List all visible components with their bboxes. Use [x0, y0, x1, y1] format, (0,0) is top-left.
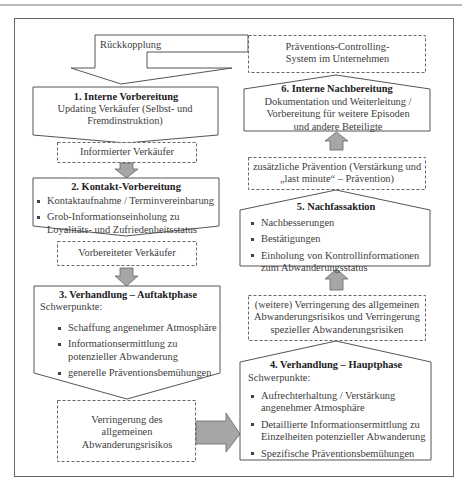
down-arrow-1	[115, 163, 138, 178]
step3-bullet: Schaffung angenehmer Atmosphäre	[57, 322, 217, 334]
step1-text: Updating Verkäufer (Selbst- und Fremdins…	[50, 103, 200, 128]
step1-title: 1. Interne Vorbereitung	[36, 91, 216, 103]
step4-title: 4. Verhandlung – Hauptphase	[242, 359, 430, 371]
step3-subtitle: Schwerpunkte:	[40, 301, 210, 313]
down-arrow-2	[115, 268, 138, 286]
step3-bullet: Informationsermittlung zu potenzieller A…	[57, 338, 183, 363]
step6-text: Dokumentation und Weiterleitung / Vorber…	[258, 96, 418, 133]
step2-bullets: Kontaktaufnahme / Terminvereinbarung Gro…	[36, 195, 218, 240]
step4-bullet: Detaillierte Informationsermittlung zu E…	[250, 419, 430, 444]
up-arrow-1	[325, 132, 348, 150]
result3-text: Verringerung des allgemeinen Abwanderung…	[78, 414, 176, 451]
step4-bullet: Spezifische Präventionsbemühungen	[250, 448, 430, 460]
result5-text: zusätzliche Prävention (Verstärkung und …	[250, 161, 424, 186]
controlling-box-text: Präventions-Controlling-System im Untern…	[285, 41, 390, 66]
right-arrow	[196, 413, 240, 452]
step4-bullet: Aufrechterhaltung / Verstärkung angenehm…	[250, 390, 411, 415]
step5-title: 5. Nachfassaktion	[242, 201, 430, 213]
step5-bullet: Nachbesserungen	[250, 217, 428, 229]
step2-bullet: Kontaktaufnahme / Terminvereinbarung	[36, 195, 218, 207]
result2-text: Vorbereiteter Verkäufer	[58, 247, 196, 259]
result4-text: (weitere) Verringerung des allgemeinen A…	[250, 299, 424, 336]
step5-bullets: Nachbesserungen Bestätigungen Einholung …	[250, 217, 428, 279]
step5-bullet: Einholung von Kontrollinformationen zum …	[250, 250, 421, 275]
step2-bullet: Grob-Informationseinholung zu Loyalitäts…	[36, 211, 218, 236]
step4-subtitle: Schwerpunkte:	[248, 372, 418, 384]
result1-text: Informierter Verkäufer	[58, 146, 196, 158]
step3-bullet: generelle Präventionsbemühungen	[57, 367, 217, 379]
step2-title: 2. Kontakt-Vorbereitung	[36, 181, 216, 193]
step3-title: 3. Verhandlung – Auftaktphase	[36, 289, 220, 301]
feedback-label: Rückkopplung	[100, 39, 170, 51]
step4-bullets: Aufrechterhaltung / Verstärkung angenehm…	[250, 390, 430, 464]
step6-title: 6. Interne Nachbereitung	[246, 83, 428, 95]
step5-bullet: Bestätigungen	[250, 233, 428, 245]
step3-bullets: Schaffung angenehmer Atmosphäre Informat…	[57, 322, 217, 384]
